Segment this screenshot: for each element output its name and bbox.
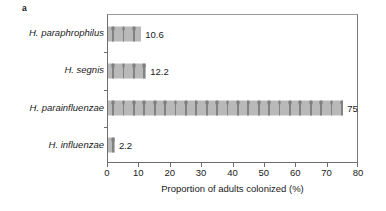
bar-row: 2.2 <box>108 127 357 164</box>
bar-value-label: 75 <box>347 103 358 114</box>
bar-row: 12.2 <box>108 52 357 89</box>
bar-pictogram-fill <box>108 138 115 153</box>
bar-value-label: 10.6 <box>145 28 164 39</box>
y-axis-tick-label: H. paraphrophilus <box>4 27 104 38</box>
x-axis-tick-label: 0 <box>104 167 109 179</box>
bar-row: 75 <box>108 90 357 127</box>
y-axis-tick-row: H. parainfluenzae <box>2 89 104 126</box>
x-axis-tick-label: 70 <box>321 167 332 179</box>
x-axis-tick-label: 20 <box>164 167 175 179</box>
bar-value-label: 2.2 <box>119 140 132 151</box>
x-axis-tick-labels: 01020304050607080 <box>107 167 358 180</box>
bar <box>108 138 115 153</box>
y-axis-tick-labels: H. paraphrophilus H. segnis H. parainflu… <box>2 14 104 163</box>
panel-label: a <box>22 3 27 13</box>
y-axis-tick-label: H. segnis <box>4 64 104 75</box>
bar <box>108 26 141 41</box>
figure-panel: a H. paraphrophilus H. segnis H. parainf… <box>0 0 386 211</box>
bar-pictogram-fill <box>108 101 343 116</box>
x-axis-tick-label: 30 <box>196 167 207 179</box>
x-axis-tick-label: 80 <box>353 167 364 179</box>
bar-value-label: 12.2 <box>150 65 169 76</box>
y-axis-tick-row: H. influenzae <box>2 126 104 163</box>
bar-pictogram-fill <box>108 63 146 78</box>
y-axis-tick-row: H. paraphrophilus <box>2 14 104 51</box>
bar <box>108 101 343 116</box>
y-axis-tick-label: H. influenzae <box>4 139 104 150</box>
y-axis-tick-row: H. segnis <box>2 51 104 88</box>
x-axis-tick-label: 40 <box>227 167 238 179</box>
y-axis-tick-label: H. parainfluenzae <box>4 102 104 113</box>
x-axis-tick-label: 50 <box>259 167 270 179</box>
plot-area: 10.6 12.2 75 2.2 <box>107 14 358 163</box>
x-axis-tick-label: 10 <box>133 167 144 179</box>
x-axis-title: Proportion of adults colonized (%) <box>107 183 358 195</box>
x-axis-tick-label: 60 <box>290 167 301 179</box>
bar <box>108 63 146 78</box>
bar-row: 10.6 <box>108 15 357 52</box>
bar-pictogram-fill <box>108 26 141 41</box>
